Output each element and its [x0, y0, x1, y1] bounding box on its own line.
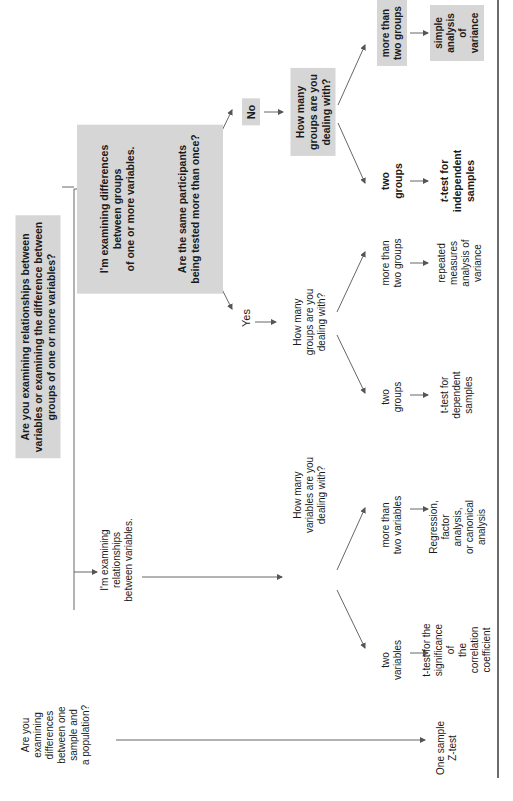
yes-how-many-groups-label: How many groups are you dealing with?	[292, 289, 328, 356]
yes-more-than-two-groups-label: more than two groups	[380, 239, 404, 288]
page-rule	[497, 0, 499, 778]
groups-statement: I'm examining differences between groups…	[98, 134, 137, 283]
root-question-box: Are you examining relationships between …	[16, 216, 61, 459]
no-how-many-groups-box: How many groups are you dealing with?	[291, 68, 336, 156]
connector-yes-two-groups	[337, 335, 365, 393]
connector-no-two-groups	[338, 123, 365, 183]
repeated-measures-anova-label: repeated measures analysis of variance	[436, 239, 484, 286]
regression-label: Regression, factor analysis, or canonica…	[428, 500, 488, 555]
no-more-than-two-groups-box: more than two groups	[377, 0, 407, 66]
same-participants-question: Are the same participants being tested m…	[176, 134, 202, 283]
ttest-dependent-label: t-test for dependent samples	[439, 371, 475, 418]
connector-var-two	[337, 590, 365, 648]
connector-no-more-than-two	[338, 45, 365, 105]
connector-yes-more-than-two	[337, 252, 365, 312]
two-variables-label: two variables	[380, 640, 404, 680]
yes-two-groups-label: two groups	[380, 382, 404, 413]
ttest-t-italic: t	[438, 199, 450, 203]
yes-label: Yes	[240, 309, 252, 327]
more-than-two-variables-label: more than two variables	[380, 496, 404, 554]
ttest-correlation-label: t-test for the significance of the corre…	[421, 622, 493, 678]
one-sample-z-test-label: One sample Z-test	[435, 721, 459, 775]
groups-box: I'm examining differences between groups…	[77, 124, 223, 293]
how-many-variables-label: How many variables are you dealing with?	[292, 457, 328, 533]
no-box: No	[242, 99, 260, 126]
simple-anova-box: simple analysis of variance	[430, 5, 484, 61]
connector-var-more-than-two	[337, 508, 365, 570]
one-sample-question-label: Are you examining differences between on…	[20, 705, 92, 765]
no-two-groups-label: two groups	[379, 163, 405, 199]
ttest-independent-text: -test for independent samples	[438, 150, 476, 212]
ttest-independent-label: t-test for independent samples	[438, 150, 477, 212]
relationships-label: I'm examining relationships between vari…	[99, 518, 135, 601]
